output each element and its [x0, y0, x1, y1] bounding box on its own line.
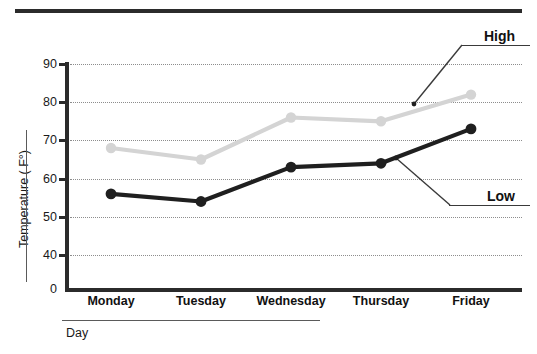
data-point-high-tuesday	[196, 154, 206, 164]
data-point-high-monday	[106, 143, 116, 153]
data-point-low-wednesday	[286, 162, 297, 173]
callout-rule-low	[449, 205, 530, 206]
callout-leader-low	[396, 158, 450, 205]
data-point-low-friday	[466, 123, 477, 134]
data-point-high-friday	[466, 89, 476, 99]
callout-anchor-low	[394, 156, 399, 161]
callout-leader-high	[414, 45, 462, 104]
callout-anchor-high	[412, 102, 417, 107]
x-axis-title: Day	[66, 326, 88, 340]
data-point-low-monday	[106, 189, 117, 200]
data-point-low-tuesday	[196, 196, 207, 207]
chart-canvas: 90 80 70 60 50 40 0 Temperature ( F°)	[0, 0, 537, 354]
x-tick-label-friday: Friday	[416, 294, 526, 308]
callout-label-high: High	[484, 28, 515, 44]
plot-area: 90 80 70 60 50 40 0 Temperature ( F°)	[0, 0, 537, 354]
callout-label-low: Low	[487, 188, 515, 204]
x-axis-title-rule	[62, 320, 320, 321]
data-point-high-thursday	[376, 116, 386, 126]
data-point-low-thursday	[376, 158, 387, 169]
callout-rule-high	[461, 45, 530, 46]
data-point-high-wednesday	[286, 112, 296, 122]
